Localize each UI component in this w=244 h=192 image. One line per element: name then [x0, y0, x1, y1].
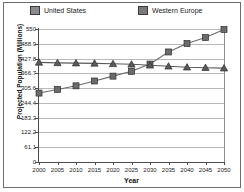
- y-axis-tick-mark: [35, 103, 38, 104]
- y-axis-tick-label: 366.7: [21, 70, 36, 76]
- chart-legend: United States Western Europe: [4, 3, 240, 18]
- x-axis-tick-mark: [113, 162, 114, 165]
- y-axis-tick-label: 427.8: [21, 56, 36, 62]
- grid-line: [39, 88, 224, 89]
- grid-line: [39, 118, 224, 119]
- plot-area: [39, 29, 224, 162]
- y-axis-title: Projected Population (Millions): [16, 17, 23, 127]
- y-axis-tick-mark: [35, 162, 38, 163]
- x-axis-tick-mark: [150, 162, 151, 165]
- grid-line: [39, 44, 224, 45]
- x-axis-tick-label: 2000: [32, 167, 45, 174]
- grid-line: [39, 59, 224, 60]
- plot-right-edge: [224, 28, 225, 163]
- x-axis-tick-label: 2040: [180, 167, 193, 174]
- grid-line: [39, 29, 224, 30]
- legend-label: United States: [44, 6, 86, 15]
- y-axis-tick-label: 488.9: [21, 41, 36, 47]
- y-axis-line: [38, 28, 39, 163]
- x-axis-tick-label: 2015: [88, 167, 101, 174]
- x-axis-title: Year: [38, 177, 225, 184]
- grid-line: [39, 132, 224, 133]
- x-axis-tick-mark: [58, 162, 59, 165]
- x-axis-tick-label: 2045: [199, 167, 212, 174]
- y-axis-tick-label: 122.2: [21, 129, 36, 135]
- y-axis-tick-label: 305.6: [21, 85, 36, 91]
- x-axis-tick-mark: [206, 162, 207, 165]
- x-axis-tick-label: 2050: [217, 167, 230, 174]
- y-axis-tick-mark: [35, 29, 38, 30]
- legend-entry-united-states[interactable]: United States: [30, 4, 86, 17]
- grid-line: [39, 147, 224, 148]
- x-axis-tick-mark: [39, 162, 40, 165]
- x-axis-tick-mark: [169, 162, 170, 165]
- x-axis-tick-label: 2035: [162, 167, 175, 174]
- y-axis-tick-mark: [35, 147, 38, 148]
- grid-line: [39, 73, 224, 74]
- x-axis-tick-mark: [224, 162, 225, 165]
- grid-line: [39, 103, 224, 104]
- y-axis-tick-label: 183.3: [21, 115, 36, 121]
- legend-label: Western Europe: [152, 6, 202, 15]
- x-axis-tick-mark: [132, 162, 133, 165]
- y-axis-tick-label: 244.4: [21, 100, 36, 106]
- x-axis-tick-label: 2025: [125, 167, 138, 174]
- y-axis-tick-mark: [35, 59, 38, 60]
- legend-entry-western-europe[interactable]: Western Europe: [138, 4, 202, 17]
- x-axis-tick-mark: [95, 162, 96, 165]
- x-axis-tick-mark: [187, 162, 188, 165]
- y-axis-tick-mark: [35, 88, 38, 89]
- x-axis-tick-label: 2020: [106, 167, 119, 174]
- chart-container: United States Western Europe 061.1122.21…: [0, 0, 244, 192]
- x-axis-tick-mark: [76, 162, 77, 165]
- y-axis-tick-mark: [35, 73, 38, 74]
- x-axis-tick-label: 2010: [69, 167, 82, 174]
- y-axis-tick-mark: [35, 118, 38, 119]
- x-axis-tick-label: 2005: [51, 167, 64, 174]
- legend-swatch-icon: [138, 6, 148, 15]
- x-axis-tick-label: 2030: [143, 167, 156, 174]
- y-axis-tick-mark: [35, 44, 38, 45]
- y-axis-tick-mark: [35, 132, 38, 133]
